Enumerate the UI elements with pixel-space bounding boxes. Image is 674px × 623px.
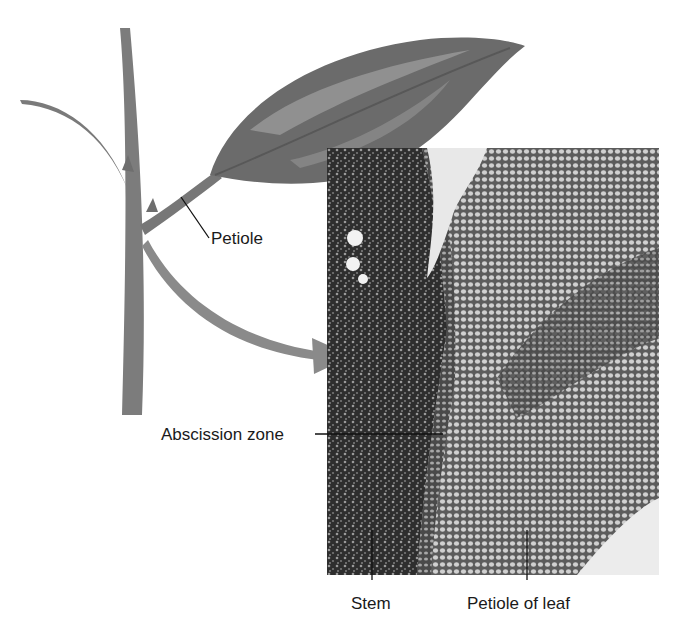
label-petiole-of-leaf: Petiole of leaf [467, 595, 570, 612]
label-abscission-zone: Abscission zone [161, 426, 284, 443]
label-petiole: Petiole [211, 230, 263, 247]
label-stem: Stem [351, 595, 391, 612]
leader-lines [0, 0, 674, 623]
